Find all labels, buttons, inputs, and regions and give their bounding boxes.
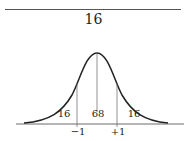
bell-curve-diagram	[0, 0, 187, 141]
minus-one-label: −1	[68, 126, 88, 137]
right-tail-label: 16	[124, 108, 144, 119]
center-label: 68	[88, 108, 108, 119]
left-tail-label: 16	[54, 108, 74, 119]
plus-one-label: +1	[108, 126, 128, 137]
